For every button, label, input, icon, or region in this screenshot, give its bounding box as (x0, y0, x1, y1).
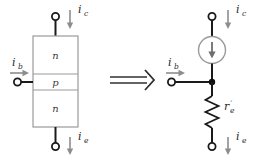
collector-current-subscript: c (84, 9, 89, 18)
equiv-collector-terminal[interactable] (208, 13, 215, 20)
emitter-current-arrow-icon (67, 137, 73, 155)
collector-current-label: i (78, 3, 82, 16)
equiv-base-current-label: i (168, 56, 172, 69)
equiv-base-terminal[interactable] (168, 78, 175, 85)
equiv-emitter-current-label: i (236, 130, 240, 143)
region-label-p-middle: p (52, 77, 59, 88)
base-terminal[interactable] (14, 78, 21, 85)
left-npn-block-model: i c n p n i b (10, 3, 89, 155)
base-current-label: i (12, 56, 16, 69)
region-label-n-bottom: n (52, 103, 58, 114)
collector-terminal[interactable] (52, 13, 59, 20)
collector-current-arrow-icon (67, 10, 73, 29)
equiv-emitter-current-arrow-icon (225, 137, 231, 155)
equiv-collector-current-label: i (236, 3, 240, 16)
transistor-equivalent-circuit-diagram: i c n p n i b (0, 0, 262, 162)
resistor-subscript: e (230, 106, 235, 115)
emitter-terminal[interactable] (52, 143, 59, 150)
emitter-current-subscript: e (84, 136, 89, 145)
equiv-base-current-subscript: b (174, 62, 179, 71)
right-equivalent-circuit: i c i b (166, 3, 247, 155)
region-label-n-top: n (52, 50, 58, 61)
equiv-collector-current-arrow-icon (225, 10, 231, 29)
equiv-emitter-terminal[interactable] (208, 143, 215, 150)
emitter-resistor-symbol (206, 96, 219, 128)
equiv-emitter-current-subscript: e (242, 136, 247, 145)
implies-double-arrow-icon (110, 70, 154, 90)
base-current-subscript: b (18, 62, 23, 71)
equiv-collector-current-subscript: c (242, 9, 247, 18)
emitter-current-label: i (78, 130, 82, 143)
